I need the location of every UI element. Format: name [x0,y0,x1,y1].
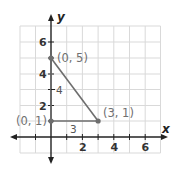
point-0-1 [48,118,53,123]
coordinate-plane: y x 2 4 6 2 4 6 (0, 5) (3, 1) (0, 1) 4 3 [0,0,174,171]
point-3-1 [96,118,101,123]
y-axis-label: y [57,10,66,24]
y-tick-label-2: 2 [39,100,47,113]
x-axis-left-arrow-icon [10,134,17,140]
y-tick-label-4: 4 [39,68,47,81]
y-axis-up-arrow-icon [48,14,54,21]
x-axis [10,134,168,140]
point-label-0-5: (0, 5) [57,51,88,65]
point-label-3-1: (3, 1) [103,106,134,120]
x-tick-label-2: 2 [79,141,87,154]
x-axis-label: x [161,122,171,136]
y-axis-down-arrow-icon [48,157,54,164]
point-label-0-1: (0, 1) [16,114,47,128]
y-tick-label-6: 6 [39,36,47,49]
x-tick-label-4: 4 [111,141,119,154]
horizontal-leg-length-label: 3 [70,123,77,135]
x-tick-label-6: 6 [142,141,150,154]
point-0-5 [48,55,53,60]
vertical-leg-length-label: 4 [56,84,63,96]
